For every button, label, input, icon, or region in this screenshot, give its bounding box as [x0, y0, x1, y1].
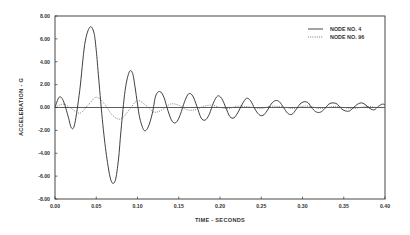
- y-tick-label: -8.00: [38, 196, 50, 202]
- x-tick-label: 0.00: [50, 203, 60, 209]
- x-tick-label: 0.30: [297, 203, 307, 209]
- chart: 8.006.004.002.000.00-2.00-4.00-6.00-8.00…: [0, 0, 410, 235]
- x-tick-label: 0.10: [132, 203, 142, 209]
- x-tick-label: 0.35: [339, 203, 349, 209]
- y-tick-label: 6.00: [40, 36, 50, 42]
- x-axis-title: TIME - SECONDS: [195, 217, 245, 223]
- y-tick-label: 4.00: [40, 59, 50, 65]
- x-tick-label: 0.25: [256, 203, 266, 209]
- y-tick-label: -4.00: [38, 150, 50, 156]
- legend-label-node-4: NODE NO. 4: [330, 26, 361, 32]
- y-tick-label: 2.00: [40, 81, 50, 87]
- legend-label-node-96: NODE NO. 96: [330, 34, 364, 40]
- x-tick-label: 0.15: [174, 203, 184, 209]
- x-tick-label: 0.40: [380, 203, 390, 209]
- y-tick-label: 0.00: [40, 104, 50, 110]
- y-axis-title: ACCELERATION - G: [18, 78, 24, 136]
- y-tick-label: 8.00: [40, 13, 50, 19]
- y-tick-label: -6.00: [38, 173, 50, 179]
- y-tick-label: -2.00: [38, 127, 50, 133]
- x-tick-label: 0.20: [215, 203, 225, 209]
- x-tick-label: 0.05: [91, 203, 101, 209]
